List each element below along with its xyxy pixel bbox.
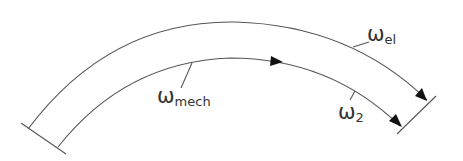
omega-2-label: ω2: [338, 100, 364, 125]
left-cap-line: [21, 123, 66, 154]
diagram-canvas: ωel ωmech ω2: [0, 0, 463, 161]
omega-mech-leader: [181, 63, 192, 88]
omega-2-leader: [350, 91, 355, 100]
inner-arc-mid-arrow-icon: [270, 56, 283, 66]
omega-mech-label: ωmech: [157, 84, 211, 109]
inner-arc-end-arrow-icon: [389, 114, 402, 127]
right-cap-line: [397, 96, 436, 134]
omega-el-label: ωel: [367, 22, 396, 47]
